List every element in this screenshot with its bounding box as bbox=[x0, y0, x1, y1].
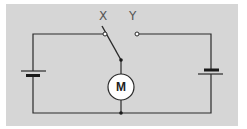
left-wire bbox=[33, 34, 103, 71]
junction-dot-icon bbox=[119, 111, 123, 115]
terminal-x-label: X bbox=[99, 10, 107, 22]
right-wire-lower bbox=[121, 74, 211, 113]
right-battery-icon bbox=[198, 70, 223, 74]
motor-label: M bbox=[108, 81, 134, 93]
terminal-y-icon bbox=[135, 32, 139, 36]
left-battery-icon bbox=[21, 71, 46, 76]
terminal-y-label: Y bbox=[129, 10, 136, 22]
pivot-dot-icon bbox=[119, 58, 123, 62]
circuit-diagram bbox=[0, 0, 247, 129]
right-wire bbox=[139, 34, 211, 70]
switch-lever bbox=[102, 26, 121, 60]
terminal-x-icon bbox=[103, 32, 107, 36]
